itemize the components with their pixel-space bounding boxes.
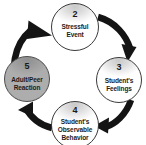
arrow-3-to-4: [94, 100, 131, 134]
node-adult-peer-reaction[interactable]: 5 Adult/Peer Reaction: [4, 56, 50, 102]
node-label-line: Behavior: [58, 134, 92, 142]
node-label: Stressful Event: [60, 23, 91, 39]
node-label-line: Student's: [105, 77, 133, 85]
node-students-feelings[interactable]: 3 Student's Feelings: [96, 57, 142, 103]
node-label: Student's Observable Behavior: [56, 118, 94, 142]
node-number: 4: [72, 106, 77, 115]
node-label-line: Event: [62, 31, 89, 39]
node-stressful-event[interactable]: 2 Stressful Event: [51, 3, 99, 51]
arrow-4-to-5: [18, 102, 52, 129]
node-label-line: Adult/Peer: [11, 76, 43, 84]
cycle-diagram: 2 Stressful Event 3 Student's Feelings 4…: [0, 0, 146, 145]
arrow-2-to-3: [98, 17, 137, 62]
node-label-line: Stressful: [62, 23, 89, 31]
node-label-line: Observable: [58, 126, 92, 134]
node-label-line: Feelings: [105, 85, 133, 93]
node-students-observable-behavior[interactable]: 4 Student's Observable Behavior: [51, 101, 99, 145]
node-number: 2: [72, 10, 77, 19]
node-label: Adult/Peer Reaction: [9, 76, 45, 92]
node-label-line: Reaction: [11, 84, 43, 92]
node-number: 3: [116, 63, 121, 72]
node-number: 5: [24, 62, 29, 71]
node-label-line: Student's: [58, 118, 92, 126]
node-label: Student's Feelings: [103, 77, 135, 93]
